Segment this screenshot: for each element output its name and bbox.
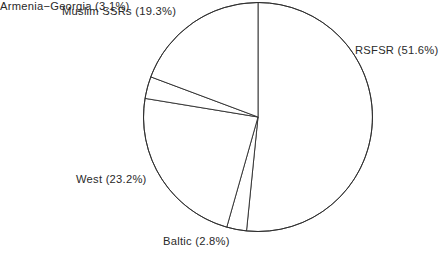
slice-label-muslim-ssrs: Muslim SSRs (19.3%) <box>62 5 176 18</box>
pie-chart-canvas <box>0 0 447 256</box>
slice-label-baltic: Baltic (2.8%) <box>163 235 230 248</box>
pie-slice-group <box>143 2 372 231</box>
pie-slice-rsfsr <box>247 2 373 231</box>
pie-chart: RSFSR (51.6%) Baltic (2.8%) West (23.2%)… <box>0 0 447 256</box>
slice-label-west: West (23.2%) <box>76 173 147 186</box>
slice-label-rsfsr: RSFSR (51.6%) <box>355 44 438 57</box>
